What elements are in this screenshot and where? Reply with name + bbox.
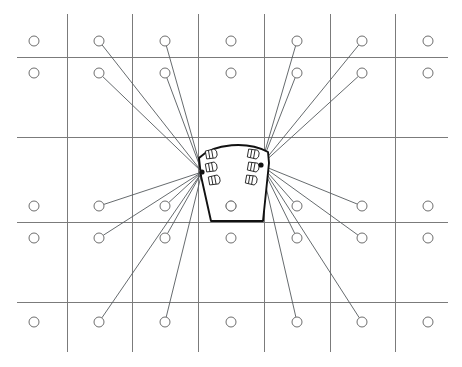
left-origin-point bbox=[199, 169, 204, 174]
seat-node bbox=[160, 68, 170, 78]
seat-node bbox=[29, 201, 39, 211]
seat-node bbox=[29, 233, 39, 243]
seat-node bbox=[423, 36, 433, 46]
seat-node bbox=[29, 68, 39, 78]
seat-node bbox=[226, 36, 236, 46]
seat-node bbox=[29, 317, 39, 327]
seat-node bbox=[292, 36, 302, 46]
stage-center-node bbox=[226, 201, 236, 211]
speaker-marker-left bbox=[205, 162, 217, 173]
seat-node bbox=[160, 233, 170, 243]
seat-node bbox=[94, 36, 104, 46]
seat-node bbox=[160, 317, 170, 327]
seat-node bbox=[357, 201, 367, 211]
diagram-root bbox=[0, 0, 462, 367]
seat-node bbox=[94, 201, 104, 211]
seat-node bbox=[94, 68, 104, 78]
seat-node bbox=[94, 233, 104, 243]
seat-node bbox=[160, 201, 170, 211]
seat-node bbox=[94, 317, 104, 327]
seat-node bbox=[357, 233, 367, 243]
seat-node bbox=[29, 36, 39, 46]
seat-node bbox=[423, 201, 433, 211]
sight-line-diagram bbox=[0, 0, 462, 367]
seat-node bbox=[423, 68, 433, 78]
speaker-marker-left bbox=[208, 175, 220, 186]
seat-node bbox=[423, 233, 433, 243]
seat-node bbox=[292, 68, 302, 78]
seat-node bbox=[292, 317, 302, 327]
seat-node bbox=[357, 317, 367, 327]
seat-node bbox=[226, 317, 236, 327]
seat-node bbox=[357, 68, 367, 78]
speaker-marker-right bbox=[247, 162, 259, 173]
seat-node bbox=[357, 36, 367, 46]
speaker-marker-right bbox=[245, 175, 257, 186]
speaker-marker-right bbox=[247, 149, 259, 160]
right-origin-point bbox=[258, 162, 263, 167]
speaker-marker-left bbox=[205, 149, 217, 160]
seat-node bbox=[423, 317, 433, 327]
seat-node bbox=[292, 233, 302, 243]
seat-node bbox=[160, 36, 170, 46]
seat-node bbox=[292, 201, 302, 211]
seat-node bbox=[226, 68, 236, 78]
seat-node bbox=[226, 233, 236, 243]
